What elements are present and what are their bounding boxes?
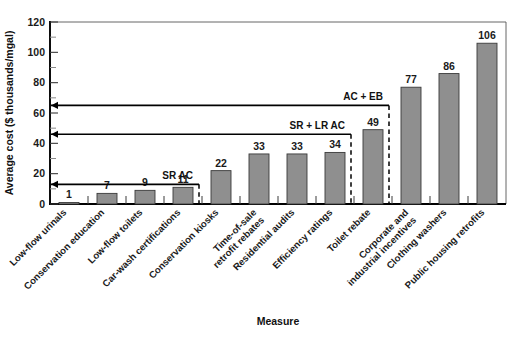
chart-svg: 020406080100120 1791122333334497786106 L…	[0, 0, 529, 337]
bar	[59, 202, 79, 204]
y-tick-label: 20	[33, 167, 45, 179]
plot-frame	[50, 22, 506, 204]
y-tick-label: 0	[39, 198, 45, 210]
bar	[287, 154, 307, 204]
annotation-label: AC + EB	[343, 91, 383, 102]
x-axis-title: Measure	[257, 315, 300, 327]
y-tick-label: 120	[27, 16, 45, 28]
arrow-head-icon	[51, 102, 58, 109]
bar-group	[59, 43, 497, 204]
bar-value-label: 77	[405, 73, 417, 85]
bar	[325, 152, 345, 204]
bar	[439, 74, 459, 204]
bar-value-label: 49	[367, 116, 379, 128]
bar	[135, 190, 155, 204]
bar-value-label: 33	[291, 140, 303, 152]
annotation-label: SR + LR AC	[290, 120, 345, 131]
bar-value-label: 106	[478, 29, 496, 41]
y-tick-label: 80	[33, 76, 45, 88]
bar	[249, 154, 269, 204]
category-label-group: Low-flow urinalsConservation educationLo…	[7, 207, 486, 292]
bar-chart: 020406080100120 1791122333334497786106 L…	[0, 0, 529, 337]
bar-value-label: 7	[104, 179, 110, 191]
bar-value-label: 86	[443, 60, 455, 72]
bar-value-label: 9	[142, 176, 148, 188]
y-tick-label: 60	[33, 107, 45, 119]
bar	[477, 43, 497, 204]
y-tick-label: 100	[27, 46, 45, 58]
bar	[401, 87, 421, 204]
bar-value-label: 34	[329, 138, 341, 150]
annotation-label: SR AC	[162, 170, 193, 181]
bar	[363, 130, 383, 204]
arrow-head-icon	[51, 131, 58, 138]
y-axis-title: Average cost ($ thousands/mgal)	[3, 31, 15, 196]
y-tick-label: 40	[33, 137, 45, 149]
bar	[97, 193, 117, 204]
bar-value-label: 33	[253, 140, 265, 152]
bar-value-group: 1791122333334497786106	[66, 29, 496, 200]
bar	[211, 171, 231, 204]
bar-value-label: 22	[215, 157, 227, 169]
arrow-head-icon	[51, 181, 58, 188]
bar-value-label: 1	[66, 188, 72, 200]
y-tick-group: 020406080100120	[27, 16, 58, 210]
bar	[173, 187, 193, 204]
category-label: Conservation kiosks	[146, 207, 220, 281]
category-label-line: Conservation kiosks	[146, 207, 220, 281]
